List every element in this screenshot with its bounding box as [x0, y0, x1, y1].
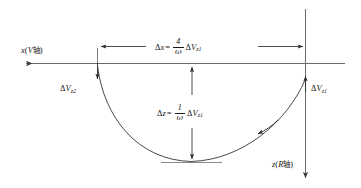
- delta-x-denominator: ω: [173, 48, 184, 57]
- z-axis-paren-close: ): [290, 159, 293, 169]
- delta-vz1-label: ΔVz1: [311, 84, 327, 93]
- motion-direction-arrow: [258, 120, 278, 134]
- delta-z-rhs-subscript: z1: [198, 112, 203, 118]
- delta-vz1-symbol: V: [316, 83, 321, 93]
- delta-x-formula: Δ x = 4 ω ΔVz1: [153, 37, 204, 57]
- delta-z-fraction: 1 ω: [175, 104, 186, 122]
- delta-vz2-subscript: z2: [71, 88, 76, 94]
- delta-z-lhs: z: [162, 108, 165, 118]
- delta-x-numerator: 4: [174, 38, 182, 47]
- delta-vz2-symbol: V: [65, 83, 70, 93]
- delta-z-formula: Δ z = 1 ω ΔVz1: [155, 103, 205, 123]
- delta-x-rhs-subscript: z1: [196, 46, 201, 52]
- delta-z-equals: =: [167, 108, 172, 118]
- z-axis-label: z(R轴): [272, 160, 293, 169]
- x-axis-paren-close: ): [40, 45, 43, 55]
- diagram-vector-layer: [0, 0, 361, 188]
- x-axis-label: x(V轴): [21, 46, 43, 55]
- trajectory-diagram: x(V轴) z(R轴) ΔVz2 ΔVz1 Δ x = 4 ω ΔVz1 Δ z…: [0, 0, 361, 188]
- delta-x-equals: =: [165, 42, 170, 52]
- delta-vz1-subscript: z1: [322, 88, 327, 94]
- delta-z-numerator: 1: [176, 104, 184, 113]
- delta-vz2-label: ΔVz2: [60, 84, 76, 93]
- delta-z-denominator: ω: [175, 114, 186, 123]
- delta-x-lhs: x: [160, 42, 164, 52]
- delta-x-fraction: 4 ω: [173, 38, 184, 56]
- x-axis-label-cjk: 轴: [33, 46, 40, 55]
